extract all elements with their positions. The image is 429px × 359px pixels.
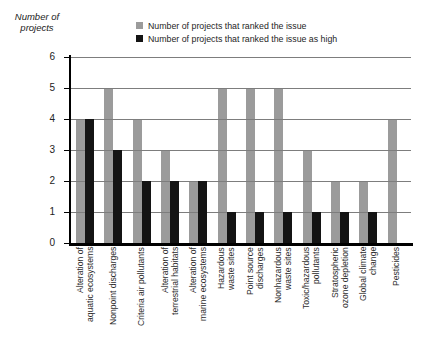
bar [246, 88, 255, 243]
y-tick-mark [64, 88, 69, 89]
y-axis-line [69, 55, 71, 246]
x-tick-slot: Pesticides [383, 247, 411, 357]
x-tick-label: Toxic/hazardous pollutants [302, 247, 321, 355]
x-tick-slot: Alteration of aquatic ecosystems [71, 247, 99, 357]
legend-row: Number of projects that ranked the issue [136, 19, 337, 32]
legend-label: Number of projects that ranked the issue… [148, 34, 337, 44]
bar [218, 88, 227, 243]
x-tick-label: Point source discharges [246, 247, 265, 355]
x-tick-slot: Nonhazardous waste sites [269, 247, 297, 357]
legend: Number of projects that ranked the issue… [136, 19, 337, 45]
y-tick-label: 0 [28, 237, 64, 249]
gridline [71, 57, 411, 58]
bar [255, 212, 264, 243]
y-tick-mark [64, 181, 69, 182]
bar [312, 212, 321, 243]
bar [303, 150, 312, 243]
x-tick-label: Hazardous waste sites [217, 247, 236, 355]
legend-swatch-icon [136, 22, 143, 29]
bar [85, 119, 94, 243]
x-tick-label: Nonhazardous waste sites [274, 247, 293, 355]
x-tick-slot: Stratospheric ozone depletion [326, 247, 354, 357]
x-tick-label: Alteration of terrestrial habitats [161, 247, 180, 355]
x-tick-slot: Toxic/hazardous pollutants [298, 247, 326, 357]
y-tick-label: 6 [28, 51, 64, 63]
x-tick-label: Pesticides [392, 247, 402, 355]
bar [161, 150, 170, 243]
x-tick-slot: Nonpoint discharges [99, 247, 127, 357]
y-tick-label: 2 [28, 175, 64, 187]
x-tick-slot: Alteration of marine ecosystems [184, 247, 212, 357]
legend-label: Number of projects that ranked the issue [148, 21, 306, 31]
x-tick-label: Criteria air pollutants [137, 247, 147, 355]
bar [198, 181, 207, 243]
y-tick-mark [64, 212, 69, 213]
x-axis-line [69, 243, 413, 246]
y-tick-label: 5 [28, 82, 64, 94]
y-tick-mark [64, 119, 69, 120]
bar [104, 88, 113, 243]
x-tick-slot: Alteration of terrestrial habitats [156, 247, 184, 357]
legend-row: Number of projects that ranked the issue… [136, 32, 337, 45]
x-tick-slot: Criteria air pollutants [128, 247, 156, 357]
gridline [71, 119, 411, 120]
bar [227, 212, 236, 243]
bar [340, 212, 349, 243]
x-tick-slot: Hazardous waste sites [213, 247, 241, 357]
bar [274, 88, 283, 243]
x-tick-label: Alteration of marine ecosystems [189, 247, 208, 355]
x-tick-label: Nonpoint discharges [109, 247, 119, 355]
legend-swatch-icon [136, 35, 143, 42]
bar [142, 181, 151, 243]
bar [170, 181, 179, 243]
y-axis-title: Number of projects [6, 11, 68, 33]
bar-chart-figure: Number of projects Number of projects th… [0, 0, 429, 359]
x-tick-labels: Alteration of aquatic ecosystemsNonpoint… [71, 247, 411, 357]
y-tick-label: 1 [28, 206, 64, 218]
bar [113, 150, 122, 243]
y-tick-mark [64, 243, 69, 244]
plot-area [71, 57, 411, 243]
x-tick-slot: Point source discharges [241, 247, 269, 357]
bar [368, 212, 377, 243]
y-tick-mark [64, 150, 69, 151]
y-tick-labels: 0123456 [28, 57, 64, 243]
x-tick-label: Stratospheric ozone depletion [331, 247, 350, 355]
gridline [71, 88, 411, 89]
y-tick-mark [64, 57, 69, 58]
bar [283, 212, 292, 243]
x-tick-slot: Global climate change [354, 247, 382, 357]
x-tick-label: Global climate change [359, 247, 378, 355]
y-tick-label: 3 [28, 144, 64, 156]
x-tick-label: Alteration of aquatic ecosystems [76, 247, 95, 355]
y-tick-label: 4 [28, 113, 64, 125]
